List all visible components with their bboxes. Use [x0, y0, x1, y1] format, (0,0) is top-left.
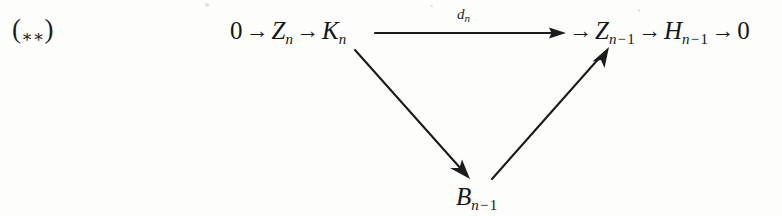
diagonal-arrow-kn-to-bn1 — [355, 50, 470, 179]
arrow-right-icon: → — [566, 18, 595, 43]
term-z-n-minus-1: Z — [595, 17, 609, 44]
exact-sequence-right: →Zn−1→Hn−1→0 — [566, 18, 750, 47]
subscript-minus: − — [690, 31, 701, 47]
exact-sequence-left: 0→Zn→Kn — [230, 18, 347, 47]
subscript-one: 1 — [700, 31, 708, 47]
arrowhead-icon — [549, 28, 566, 39]
subscript-n: n — [609, 31, 617, 47]
equation-tag-open-paren: ( — [12, 14, 22, 44]
term-zero-right: 0 — [737, 17, 750, 44]
equation-tag-stars: ∗∗ — [22, 27, 45, 46]
subscript-minus: − — [617, 31, 628, 47]
arrow-right-icon: → — [293, 18, 322, 43]
subscript-n-minus-1: n−1 — [682, 31, 708, 47]
long-arrow-d-n — [375, 28, 566, 39]
map-label-d-n: dn — [457, 7, 470, 24]
arrow-right-icon: → — [243, 18, 272, 43]
subscript-minus: − — [479, 197, 490, 213]
scan-speckle — [205, 3, 209, 7]
term-z-n: Z — [272, 17, 286, 44]
map-label-symbol: d — [457, 6, 465, 22]
math-figure: (∗∗) 0→Zn→Kn dn →Zn−1→Hn−1→0 Bn−1 — [0, 0, 782, 216]
scan-speckle — [638, 9, 640, 12]
arrowhead-icon — [593, 47, 610, 68]
arrow-right-icon: → — [708, 18, 737, 43]
subscript-n: n — [285, 31, 293, 47]
vertex-b-n-minus-1: Bn−1 — [456, 184, 497, 213]
term-h-n-minus-1: H — [664, 17, 682, 44]
subscript-one: 1 — [627, 31, 635, 47]
subscript-n: n — [682, 31, 690, 47]
term-k-n: K — [322, 17, 339, 44]
subscript-n: n — [339, 31, 347, 47]
arrow-right-icon: → — [635, 18, 664, 43]
term-b: B — [456, 183, 471, 210]
subscript-n: n — [471, 197, 479, 213]
equation-tag: (∗∗) — [12, 16, 54, 45]
scan-speckle — [430, 5, 433, 7]
map-label-subscript: n — [465, 12, 471, 24]
subscript-one: 1 — [490, 197, 498, 213]
equation-tag-close-paren: ) — [45, 14, 55, 44]
subscript-n-minus-1: n−1 — [609, 31, 635, 47]
subscript-n-minus-1: n−1 — [471, 197, 497, 213]
arrowhead-icon — [450, 160, 470, 180]
diagonal-arrow-bn1-to-zn1 — [492, 47, 609, 179]
term-zero-left: 0 — [230, 17, 243, 44]
